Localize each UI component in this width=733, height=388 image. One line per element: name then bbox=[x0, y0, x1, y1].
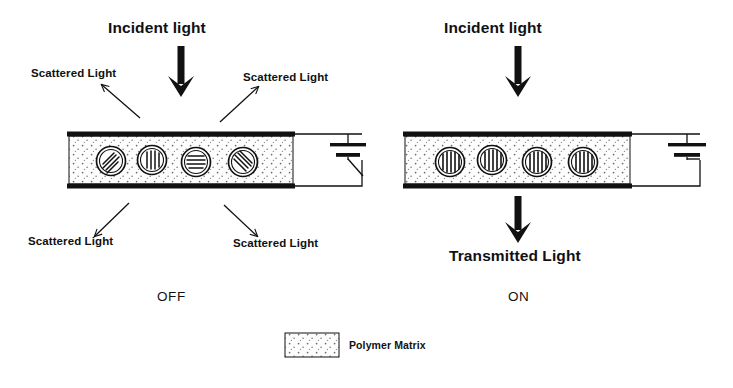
switch-open-icon bbox=[348, 159, 363, 176]
lc-droplet bbox=[523, 148, 552, 177]
incident-arrow-off bbox=[168, 46, 194, 97]
panel-on bbox=[403, 46, 706, 243]
diagram-graphics bbox=[0, 0, 733, 388]
legend-label: Polymer Matrix bbox=[349, 340, 426, 351]
electrode-bottom-off bbox=[67, 184, 295, 189]
transmitted-light-label: Transmitted Light bbox=[449, 248, 581, 264]
battery-symbol-off bbox=[330, 134, 366, 160]
circuit-off bbox=[295, 134, 362, 186]
electrode-top-off bbox=[67, 132, 295, 137]
scattered-light-label-top-left: Scattered Light bbox=[31, 68, 116, 80]
incident-arrow-on bbox=[505, 46, 531, 97]
incident-light-label-off: Incident light bbox=[108, 20, 206, 36]
lc-droplet bbox=[436, 148, 465, 177]
scatter-arrow-bottom-right bbox=[224, 205, 257, 236]
scatter-arrow-bottom-left bbox=[95, 203, 129, 236]
lc-droplet bbox=[138, 146, 167, 175]
diagram-canvas: Incident light Scattered Light Scattered… bbox=[0, 0, 733, 388]
lc-droplet bbox=[478, 146, 507, 175]
scattered-light-label-top-right: Scattered Light bbox=[243, 72, 328, 84]
circuit-on bbox=[632, 134, 700, 186]
scatter-arrow-top-left bbox=[102, 85, 140, 118]
lc-droplet bbox=[229, 148, 258, 177]
electrode-top-on bbox=[403, 132, 632, 137]
state-label-off: OFF bbox=[157, 290, 186, 304]
battery-symbol-on bbox=[668, 134, 706, 160]
legend-swatch bbox=[285, 333, 339, 357]
lc-droplet bbox=[182, 148, 211, 177]
incident-light-label-on: Incident light bbox=[444, 20, 542, 36]
transmitted-arrow bbox=[505, 196, 531, 243]
lc-droplet bbox=[97, 147, 126, 176]
scatter-arrow-top-right bbox=[220, 87, 258, 122]
lc-droplet bbox=[569, 148, 598, 177]
scattered-light-label-bottom-left: Scattered Light bbox=[28, 236, 113, 248]
state-label-on: ON bbox=[508, 290, 529, 304]
electrode-bottom-on bbox=[403, 184, 632, 189]
scattered-light-label-bottom-right: Scattered Light bbox=[233, 238, 318, 250]
